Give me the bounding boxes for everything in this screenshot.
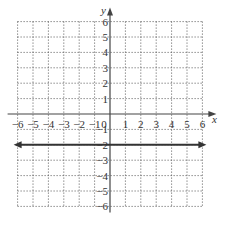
x-tick-label: −5 [27,118,39,130]
x-tick-label: 3 [153,118,159,130]
y-tick-label: −3 [96,154,108,166]
axes [8,8,217,213]
x-axis-label: x [211,113,217,125]
x-tick-label: 1 [123,118,129,130]
x-tick-label: 2 [138,118,144,130]
y-axis-arrow-icon [107,8,113,16]
x-tick-label: 6 [200,118,206,130]
y-tick-label: −4 [96,170,108,182]
x-tick-label: −6 [12,118,24,130]
x-tick-label: −4 [43,118,55,130]
coordinate-plane: −6−5−4−3−2−10123456654321−1−2−3−4−5−6 x … [0,0,226,225]
x-tick-label: 5 [184,118,190,130]
y-tick-label: 5 [103,31,109,43]
y-axis-label: y [100,4,106,16]
x-tick-label: −3 [58,118,70,130]
y-tick-label: 6 [103,16,109,28]
y-tick-label: −1 [96,123,108,135]
y-tick-label: 3 [103,62,109,74]
y-tick-label: −6 [96,200,108,212]
y-tick-label: 1 [103,93,109,105]
x-tick-label: −2 [73,118,85,130]
y-tick-label: 4 [103,46,109,58]
y-tick-label: 2 [103,77,109,89]
x-tick-label: 4 [169,118,175,130]
y-tick-label: −5 [96,185,108,197]
y-tick-label: −2 [96,139,108,151]
